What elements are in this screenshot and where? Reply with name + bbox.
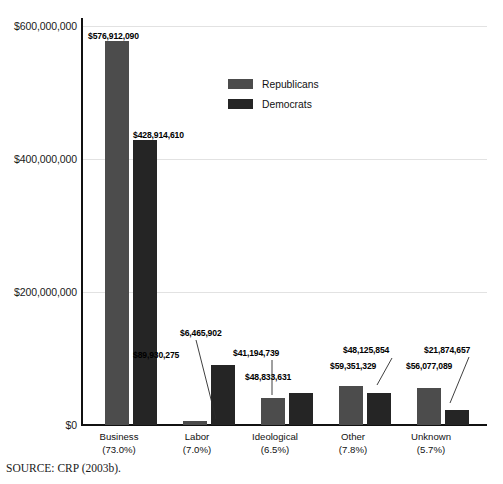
value-label-other-republicans: $59,351,329 [330, 361, 376, 371]
bar-business-republicans [105, 41, 129, 425]
value-label-business-democrats: $428,914,610 [133, 130, 184, 140]
category-label-business: Business (73.0%) [81, 431, 157, 456]
category-name: Labor [185, 431, 210, 442]
y-tick-label: $600,000,000 [14, 20, 77, 32]
legend-swatch-icon [228, 99, 253, 109]
bar-other-republicans [339, 386, 363, 425]
bar-ideological-democrats [289, 393, 313, 425]
bar-chart: $600,000,000 $400,000,000 $200,000,000 $… [0, 0, 503, 484]
bar-unknown-democrats [445, 410, 469, 425]
value-label-labor-republicans: $6,465,902 [180, 328, 222, 338]
category-label-unknown: Unknown (5.7%) [393, 431, 469, 456]
value-label-other-democrats: $48,125,854 [343, 345, 389, 355]
value-label-business-republicans: $576,912,090 [88, 31, 139, 41]
category-percent: (6.5%) [237, 444, 313, 457]
legend-swatch-icon [228, 79, 253, 89]
category-name: Business [100, 431, 139, 442]
bar-business-democrats [133, 140, 157, 425]
value-label-unknown-democrats: $21,874,657 [424, 345, 470, 355]
y-axis-tick-labels: $600,000,000 $400,000,000 $200,000,000 $… [0, 0, 77, 484]
bar-unknown-republicans [417, 388, 441, 425]
category-percent: (73.0%) [81, 444, 157, 457]
category-name: Other [341, 431, 365, 442]
legend: Republicans Democrats [228, 76, 319, 116]
value-label-unknown-republicans: $56,077,089 [406, 361, 452, 371]
value-label-labor-democrats: $89,930,275 [133, 350, 179, 360]
value-label-ideological-democrats: $48,833,631 [245, 372, 291, 382]
value-label-ideological-republicans: $41,194,739 [233, 348, 279, 358]
y-tick-label: $200,000,000 [14, 286, 77, 298]
category-percent: (5.7%) [393, 444, 469, 457]
bar-labor-democrats [211, 365, 235, 425]
category-percent: (7.0%) [159, 444, 235, 457]
category-label-labor: Labor (7.0%) [159, 431, 235, 456]
legend-label: Democrats [262, 99, 312, 110]
category-label-ideological: Ideological (6.5%) [237, 431, 313, 456]
legend-item-democrats: Democrats [228, 96, 319, 112]
category-name: Ideological [252, 431, 298, 442]
legend-label: Republicans [262, 79, 319, 90]
legend-item-republicans: Republicans [228, 76, 319, 92]
y-tick-label: $0 [66, 419, 77, 431]
bar-other-democrats [367, 393, 391, 425]
source-note: SOURCE: CRP (2003b). [6, 462, 121, 474]
category-percent: (7.8%) [315, 444, 391, 457]
y-tick-label: $400,000,000 [14, 153, 77, 165]
bar-labor-republicans [183, 421, 207, 425]
category-label-other: Other (7.8%) [315, 431, 391, 456]
category-name: Unknown [411, 431, 451, 442]
bar-ideological-republicans [261, 398, 285, 425]
